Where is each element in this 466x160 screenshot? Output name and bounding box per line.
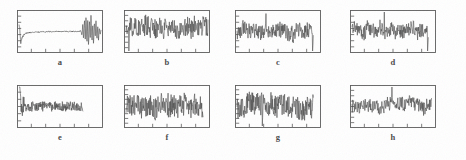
panel-caption-b: b — [124, 58, 210, 67]
signal-svg-a — [17, 10, 103, 53]
panel-h — [350, 85, 436, 128]
plot-area-e — [17, 85, 103, 128]
signal-trace-h — [352, 87, 432, 116]
panel-caption-f: f — [124, 133, 210, 142]
plot-area-a — [17, 10, 103, 53]
panel-d — [350, 10, 436, 53]
plot-area-g — [235, 85, 321, 128]
plot-area-b — [124, 10, 210, 53]
signal-trace-g — [237, 92, 313, 126]
plot-area-f — [124, 85, 210, 128]
signal-trace-e — [19, 87, 83, 116]
panel-b — [124, 10, 210, 53]
panel-caption-c: c — [235, 58, 321, 67]
plot-area-c — [235, 10, 321, 53]
signal-svg-e — [17, 85, 103, 128]
panel-a — [17, 10, 103, 53]
signal-svg-h — [350, 85, 436, 128]
panel-c — [235, 10, 321, 53]
panel-e — [17, 85, 103, 128]
signal-svg-d — [350, 10, 436, 53]
panel-g — [235, 85, 321, 128]
plot-area-h — [350, 85, 436, 128]
signal-svg-b — [124, 10, 210, 53]
panel-caption-d: d — [350, 58, 436, 67]
signal-svg-f — [124, 85, 210, 128]
figure-panel-grid: abcdefgh — [0, 0, 466, 160]
panel-caption-e: e — [17, 133, 103, 142]
signal-svg-c — [235, 10, 321, 53]
panel-caption-g: g — [235, 133, 321, 142]
signal-trace-c — [237, 14, 313, 51]
signal-trace-f — [126, 93, 203, 120]
signal-trace-d — [352, 12, 428, 51]
plot-area-d — [350, 10, 436, 53]
signal-trace-b — [126, 15, 208, 51]
panel-caption-a: a — [17, 58, 103, 67]
signal-trace-a — [19, 15, 101, 44]
signal-svg-g — [235, 85, 321, 128]
panel-f — [124, 85, 210, 128]
panel-caption-h: h — [350, 133, 436, 142]
